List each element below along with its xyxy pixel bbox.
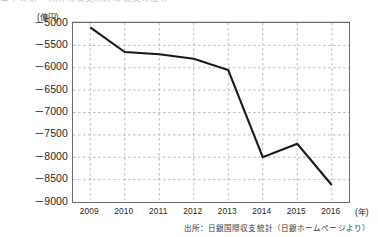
- x-axis-unit-label: (年): [355, 205, 369, 217]
- y-tick-label: －5500: [0, 39, 72, 49]
- data-series-line: [90, 27, 332, 185]
- data-line-layer: [73, 23, 349, 202]
- x-tick-label: 2016: [311, 206, 351, 216]
- figure-title-cropped: 日本の第一次所得収支以外の収支の推移: [0, 0, 378, 3]
- y-tick-label: －7500: [0, 128, 72, 138]
- y-tick-label: －6000: [0, 61, 72, 71]
- y-tick-label: －7000: [0, 106, 72, 116]
- y-tick-label: －8000: [0, 151, 72, 161]
- y-tick-label: －5000: [0, 17, 72, 27]
- figure-container: 日本の第一次所得収支以外の収支の推移 (億円) －5000－5500－6000－…: [0, 0, 378, 237]
- plot-area: [72, 22, 350, 203]
- source-note: 出所：日銀国際収支統計（日銀ホームページより）: [184, 222, 370, 233]
- y-tick-label: －6500: [0, 84, 72, 94]
- y-tick-label: －9000: [0, 196, 72, 206]
- y-tick-label: －8500: [0, 173, 72, 183]
